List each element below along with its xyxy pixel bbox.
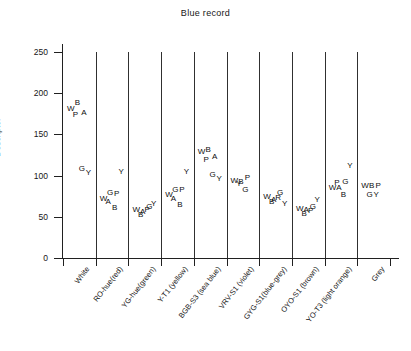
data-point-label: P xyxy=(203,156,208,164)
x-tick xyxy=(325,258,326,266)
x-tick-label: YG-hue(green) xyxy=(119,265,157,310)
data-point-label: P xyxy=(375,182,380,190)
data-point-label: Y xyxy=(236,180,241,188)
category-separator xyxy=(128,52,129,258)
category-separator xyxy=(259,52,260,258)
data-point-label: Y xyxy=(373,191,378,199)
x-tick-label: RO-hue(red) xyxy=(92,265,125,304)
data-point-label: B xyxy=(205,146,210,154)
data-point-label: A xyxy=(171,195,176,203)
x-tick xyxy=(161,258,162,266)
y-tick xyxy=(54,217,63,218)
data-point-label: P xyxy=(145,206,150,214)
chart-root: Blue record Descriptor 050100150200250 W… xyxy=(0,0,411,351)
data-point-label: Y xyxy=(216,175,221,183)
y-tick xyxy=(54,258,63,259)
data-point-label: G xyxy=(107,189,113,197)
x-tick-label: Y-T1 (yellow) xyxy=(156,265,190,305)
x-tick xyxy=(63,258,64,266)
data-point-label: B xyxy=(341,191,346,199)
category-separator xyxy=(161,52,162,258)
data-point-label: Y xyxy=(86,169,91,177)
y-tick-label: 150 xyxy=(0,129,48,139)
data-point-label: G xyxy=(79,165,85,173)
y-tick-label: 50 xyxy=(0,212,48,222)
data-point-label: P xyxy=(308,207,313,215)
category-separator xyxy=(325,52,326,258)
y-tick xyxy=(54,176,63,177)
x-tick xyxy=(227,258,228,266)
x-axis-line xyxy=(62,258,399,259)
category-separator xyxy=(292,52,293,258)
data-point-label: B xyxy=(138,211,143,219)
data-point-label: Y xyxy=(347,162,352,170)
x-tick xyxy=(259,258,260,266)
x-tick xyxy=(357,258,358,266)
y-tick-label: 250 xyxy=(0,47,48,57)
data-point-label: B xyxy=(75,99,80,107)
x-tick-label: Grey xyxy=(369,265,386,283)
x-tick-label: White xyxy=(73,265,92,286)
data-point-label: G xyxy=(210,171,216,179)
data-point-label: G xyxy=(367,191,373,199)
data-point-label: W xyxy=(361,182,369,190)
data-point-label: B xyxy=(302,210,307,218)
data-point-label: G xyxy=(342,178,348,186)
category-separator xyxy=(227,52,228,258)
data-point-label: P xyxy=(245,174,250,182)
y-tick-label: 100 xyxy=(0,171,48,181)
data-point-label: Y xyxy=(151,200,156,208)
x-tick xyxy=(96,258,97,266)
y-tick xyxy=(54,93,63,94)
chart-title: Blue record xyxy=(0,8,411,18)
data-point-label: P xyxy=(334,179,339,187)
data-point-label: G xyxy=(242,186,248,194)
y-axis-line xyxy=(62,44,63,259)
y-tick-label: 200 xyxy=(0,88,48,98)
data-point-label: P xyxy=(73,111,78,119)
data-point-label: B xyxy=(177,201,182,209)
data-point-label: B xyxy=(269,198,274,206)
data-point-label: P xyxy=(179,186,184,194)
data-point-label: Y xyxy=(282,200,287,208)
data-point-label: Y xyxy=(315,196,320,204)
data-point-label: A xyxy=(81,109,86,117)
category-separator xyxy=(194,52,195,258)
data-point-label: B xyxy=(112,204,117,212)
category-separator xyxy=(357,52,358,258)
x-tick xyxy=(128,258,129,266)
data-point-label: P xyxy=(114,190,119,198)
y-tick xyxy=(54,134,63,135)
x-tick xyxy=(194,258,195,266)
data-point-label: B xyxy=(369,182,374,190)
data-point-label: A xyxy=(212,153,217,161)
x-tick xyxy=(292,258,293,266)
data-point-label: R xyxy=(275,194,281,202)
category-separator xyxy=(96,52,97,258)
data-point-label: A xyxy=(105,198,110,206)
y-tick-label: 0 xyxy=(0,253,48,263)
y-tick xyxy=(54,52,63,53)
x-tick xyxy=(390,258,391,266)
data-point-label: Y xyxy=(118,168,123,176)
data-point-label: Y xyxy=(184,168,189,176)
